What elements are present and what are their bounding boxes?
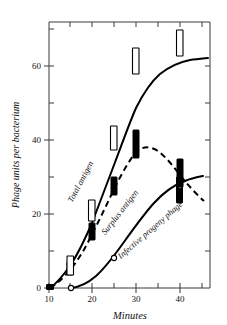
errorbar-total-40: [177, 30, 184, 56]
phage-growth-chart-figure: 0 20 40 60: [0, 0, 227, 325]
marker-infective-15: [68, 285, 73, 290]
errorbar-total-15: [67, 256, 74, 275]
chart-canvas: 0 20 40 60: [0, 0, 227, 325]
errorbar-surplus-25: [111, 177, 117, 195]
errorbar-surplus-40: [177, 159, 183, 187]
x-tick-label-30: 30: [132, 294, 142, 304]
x-tick-label-20: 20: [88, 294, 98, 304]
y-tick-label-40: 40: [32, 135, 42, 145]
y-tick-label-0: 0: [37, 283, 42, 293]
errorbar-total-20: [89, 200, 96, 221]
x-tick-label-40: 40: [176, 294, 186, 304]
errorbar-total-25: [111, 126, 118, 150]
y-tick-label-60: 60: [32, 61, 42, 71]
errorbar-total-30: [133, 48, 140, 74]
y-tick-label-20: 20: [32, 209, 42, 219]
x-tick-label-10: 10: [45, 294, 55, 304]
x-axis-title: Minutes: [112, 310, 147, 321]
y-axis-title: Phage units per bacterium: [10, 102, 21, 209]
errorbar-surplus-30: [133, 130, 139, 158]
marker-infective-25: [111, 255, 116, 260]
origin-marker: [47, 285, 54, 290]
